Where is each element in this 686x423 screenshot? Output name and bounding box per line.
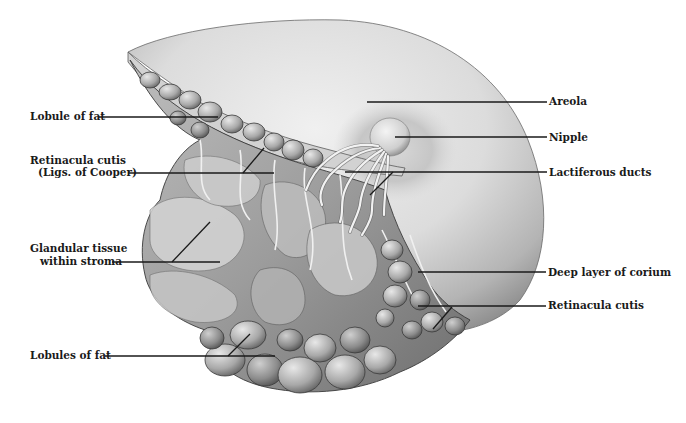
label-glandular-tissue-line2: within stroma <box>39 255 122 267</box>
label-glandular-tissue: Glandular tissue <box>30 242 128 254</box>
label-nipple: Nipple <box>549 131 588 143</box>
label-lobules-of-fat: Lobules of fat <box>30 349 111 361</box>
mammary-gland-illustration: Lobule of fat Retinacula cutis (Ligs. of… <box>0 0 686 423</box>
label-retinacula-cutis: Retinacula cutis <box>548 299 644 311</box>
label-retinacula-cutis-cooper: Retinacula cutis <box>30 154 126 166</box>
label-areola: Areola <box>548 95 587 107</box>
label-deep-layer-of-corium: Deep layer of corium <box>548 266 671 278</box>
label-lactiferous-ducts: Lactiferous ducts <box>549 166 652 178</box>
label-lobule-of-fat: Lobule of fat <box>30 110 105 122</box>
label-retinacula-cutis-cooper-line2: (Ligs. of Cooper) <box>38 166 137 178</box>
